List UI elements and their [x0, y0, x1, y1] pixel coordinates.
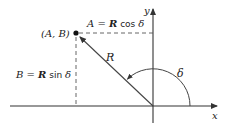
eq-h-fn: cos [117, 19, 138, 29]
angle-label: δ [177, 67, 184, 80]
eq-v-equals: = [23, 69, 38, 80]
equation-vertical: B = R sin δ [15, 69, 71, 80]
eq-h-equals: = [94, 18, 109, 29]
polar-coordinate-diagram: y x (A, B) R δ A = R cos δ B = R sin δ [0, 0, 233, 130]
point-marker [73, 30, 78, 35]
eq-v-fn: sin [46, 70, 65, 80]
x-axis-label: x [212, 110, 218, 121]
eq-h-angle: δ [138, 18, 144, 29]
vector-label: R [105, 51, 114, 64]
y-axis-label: y [143, 5, 150, 16]
equation-horizontal: A = R cos δ [86, 18, 144, 29]
eq-h-lhs: A [86, 18, 94, 29]
eq-v-lhs: B [15, 69, 23, 80]
eq-v-angle: δ [65, 69, 71, 80]
eq-h-r: R [108, 18, 117, 29]
point-label: (A, B) [41, 28, 70, 39]
eq-v-r: R [37, 69, 46, 80]
vector-r [80, 37, 153, 106]
